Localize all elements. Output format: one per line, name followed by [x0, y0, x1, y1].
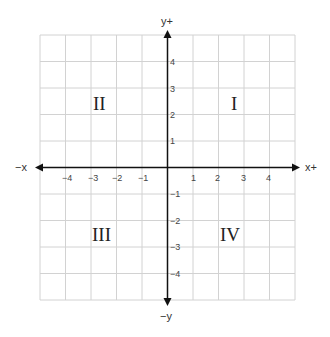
y-tick: 4	[170, 57, 175, 67]
y-tick: −2	[170, 216, 180, 226]
quadrant-i-label: I	[231, 93, 237, 114]
x-tick: −2	[112, 173, 122, 183]
y-negative-label: −y	[160, 310, 172, 322]
y-tick: 3	[170, 84, 175, 94]
x-negative-label: −x	[15, 161, 27, 173]
coordinate-plane: x+ −x y+ −y −4 −3 −2 −1 1 2 3 4 4 3 2 1 …	[0, 0, 330, 337]
x-tick: −3	[88, 173, 98, 183]
x-tick: 4	[266, 173, 271, 183]
x-tick: 3	[241, 173, 246, 183]
x-tick: −1	[138, 173, 148, 183]
arrow-right-icon	[292, 164, 300, 172]
quadrant-ii-label: II	[93, 93, 106, 114]
x-tick: 1	[191, 173, 196, 183]
quadrant-iii-label: III	[92, 224, 111, 245]
y-tick: 1	[170, 136, 175, 146]
y-positive-label: y+	[161, 15, 173, 27]
arrow-down-icon	[164, 298, 172, 306]
y-tick: −4	[170, 269, 180, 279]
y-tick: −1	[170, 189, 180, 199]
y-tick: 2	[170, 110, 175, 120]
arrow-left-icon	[35, 164, 43, 172]
x-tick: −4	[62, 173, 72, 183]
x-tick-labels: −4 −3 −2 −1 1 2 3 4	[62, 173, 271, 183]
arrow-up-icon	[164, 30, 172, 38]
x-positive-label: x+	[305, 161, 317, 173]
quadrant-iv-label: IV	[220, 224, 240, 245]
y-tick: −3	[170, 242, 180, 252]
x-tick: 2	[215, 173, 220, 183]
